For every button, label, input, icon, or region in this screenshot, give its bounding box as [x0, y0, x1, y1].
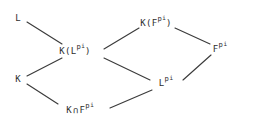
node-base-text: L: [15, 13, 21, 23]
node-superscript-nested: i: [162, 14, 166, 21]
lattice-edge: [175, 28, 210, 44]
lattice-node-l-pi: Lpi: [159, 78, 173, 88]
lattice-edge: [183, 55, 211, 80]
node-base-text: K: [66, 105, 72, 115]
lattice-edge: [27, 84, 58, 104]
lattice-edge: [110, 90, 152, 108]
lattice-diagram: LK(Fpi)K(Lpi)FpiKLpiK∩Fpi: [0, 0, 255, 129]
lattice-node-l: L: [15, 13, 21, 23]
node-superscript-nested: i: [169, 74, 173, 81]
lattice-edge: [104, 28, 139, 49]
node-suffix-text: ): [166, 18, 172, 28]
node-suffix-text: ): [85, 46, 91, 56]
lattice-node-k: K: [15, 74, 21, 84]
node-superscript: p: [219, 40, 224, 49]
lattice-edge: [27, 22, 62, 44]
node-base-text: F: [213, 44, 219, 54]
lattice-node-f-pi: Fpi: [213, 44, 227, 54]
lattice-edge: [104, 58, 150, 80]
lattice-node-k-cap-f-pi: K∩Fpi: [66, 105, 94, 115]
edge-layer: [0, 0, 255, 129]
node-superscript: p: [165, 74, 170, 83]
node-base-text: K(F: [140, 18, 157, 28]
lattice-edge: [27, 58, 62, 76]
node-superscript-nested: i: [223, 40, 227, 47]
node-superscript-nested: i: [90, 101, 94, 108]
lattice-node-kl-pi: K(Lpi): [59, 46, 90, 56]
node-superscript-nested: i: [81, 42, 85, 49]
node-base-text: L: [159, 78, 165, 88]
node-base-text: K(L: [59, 46, 76, 56]
node-base-text: K: [15, 74, 21, 84]
lattice-node-kf-pi: K(Fpi): [140, 18, 171, 28]
